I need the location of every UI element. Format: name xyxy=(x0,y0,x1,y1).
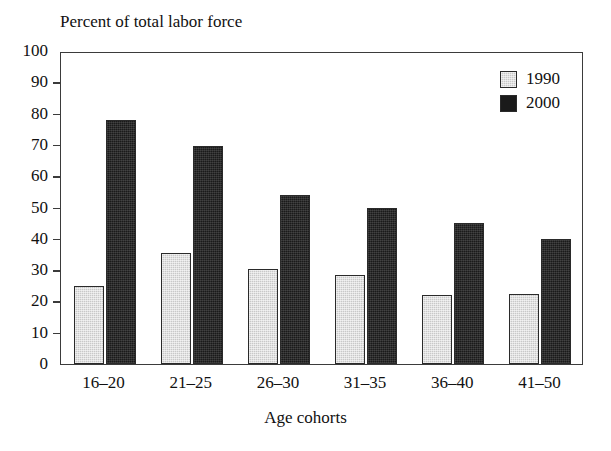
legend-label-1990: 1990 xyxy=(526,69,560,89)
bar-1990-31–35 xyxy=(335,275,365,364)
legend-label-2000: 2000 xyxy=(526,93,560,113)
plot-area: 19902000 xyxy=(60,52,583,365)
y-axis-tick-label: 100 xyxy=(23,41,49,61)
y-axis-tick-label: 10 xyxy=(31,323,48,343)
bar-1990-21–25 xyxy=(161,253,191,364)
bar-1990-36–40 xyxy=(422,295,452,364)
y-axis-tick-mark xyxy=(53,301,60,303)
legend-swatch-2000 xyxy=(500,95,517,112)
y-axis-tick-label: 30 xyxy=(31,260,48,280)
y-axis-tick-label: 40 xyxy=(31,229,48,249)
y-axis-tick-mark xyxy=(53,239,60,241)
x-axis-tick-label: 31–35 xyxy=(344,373,387,393)
y-axis-tick-label: 50 xyxy=(31,198,48,218)
x-axis-tick-label: 16–20 xyxy=(82,373,125,393)
bar-chart: Percent of total labor force 01020304050… xyxy=(0,0,611,451)
y-axis-tick-mark xyxy=(53,208,60,210)
bar-group xyxy=(410,53,497,364)
bar-1990-41–50 xyxy=(509,294,539,364)
bar-2000-26–30 xyxy=(280,195,310,364)
y-axis-tick-label: 20 xyxy=(31,291,48,311)
legend-item-1990: 1990 xyxy=(500,67,560,91)
y-axis-tick-label: 80 xyxy=(31,104,48,124)
y-axis: 0102030405060708090100 xyxy=(0,52,60,365)
bar-group xyxy=(323,53,410,364)
y-axis-tick-mark xyxy=(53,270,60,272)
bar-1990-26–30 xyxy=(248,269,278,364)
bar-group xyxy=(61,53,148,364)
x-axis-tick-label: 26–30 xyxy=(257,373,300,393)
x-axis-tick-label: 21–25 xyxy=(170,373,213,393)
y-axis-tick-mark xyxy=(53,176,60,178)
y-axis-tick-label: 60 xyxy=(31,166,48,186)
bar-2000-31–35 xyxy=(367,208,397,365)
y-axis-tick-label: 0 xyxy=(40,354,49,374)
legend-swatch-1990 xyxy=(500,71,517,88)
y-axis-tick-mark xyxy=(53,145,60,147)
x-axis-tick-label: 41–50 xyxy=(518,373,561,393)
bar-2000-16–20 xyxy=(106,120,136,364)
y-axis-tick-mark xyxy=(53,114,60,116)
bar-2000-36–40 xyxy=(454,223,484,364)
y-axis-tick-label: 70 xyxy=(31,135,48,155)
bar-group xyxy=(235,53,322,364)
bar-2000-21–25 xyxy=(193,146,223,364)
y-axis-tick-mark xyxy=(53,333,60,335)
chart-title: Percent of total labor force xyxy=(60,12,242,32)
bar-1990-16–20 xyxy=(74,286,104,364)
bar-group xyxy=(148,53,235,364)
x-axis-tick-label: 36–40 xyxy=(431,373,474,393)
chart-legend: 19902000 xyxy=(500,67,560,115)
y-axis-tick-label: 90 xyxy=(31,72,48,92)
x-axis: 16–2021–2526–3031–3536–4041–50 xyxy=(60,365,583,401)
x-axis-title: Age cohorts xyxy=(0,408,611,428)
legend-item-2000: 2000 xyxy=(500,91,560,115)
y-axis-tick-mark xyxy=(53,82,60,84)
bar-2000-41–50 xyxy=(541,239,571,364)
